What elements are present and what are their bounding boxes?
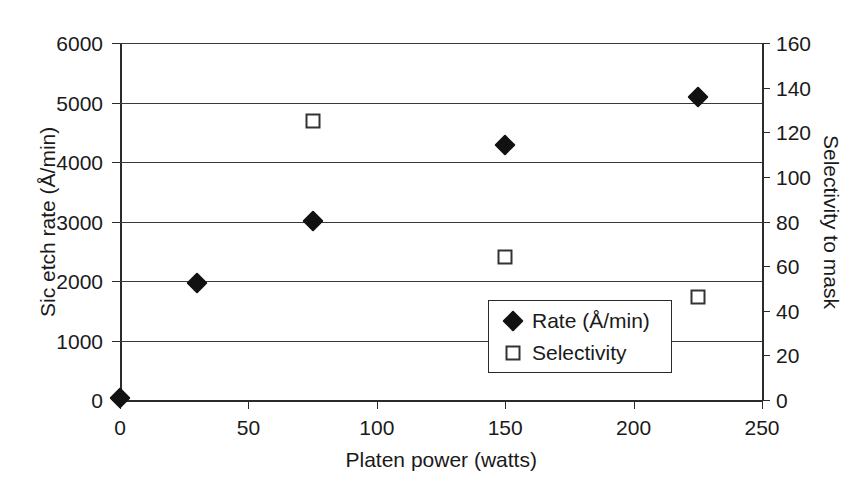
y-axis-right-ticklabel: 60 [776,256,799,277]
data-point-rate [302,210,323,231]
y-axis-right-ticklabel: 80 [776,211,799,232]
y-axis-right-ticklabel: 20 [776,345,799,366]
x-axis-line [120,400,762,402]
y-axis-left-ticklabel: 6000 [0,33,103,54]
y-axis-left-ticklabel: 3000 [0,211,103,232]
y-axis-left-ticklabel: 1000 [0,330,103,351]
y-axis-left-tick [112,281,120,282]
x-axis-title: Platen power (watts) [346,448,537,472]
y-axis-left-tick [112,162,120,163]
gridline-y [120,281,762,282]
y-axis-left-tick [112,222,120,223]
y-axis-right-tick [762,266,770,267]
y-axis-right-tick [762,132,770,133]
y-axis-left-tick [112,341,120,342]
data-point-selectivity [690,290,705,305]
y-axis-right-tick [762,222,770,223]
x-axis-tick [634,400,635,409]
y-axis-left-tick [112,43,120,44]
y-axis-right-tick [762,311,770,312]
gridline-y [120,162,762,163]
y-axis-right-tick [762,177,770,178]
y-axis-right-tick [762,400,770,401]
y-axis-right-ticklabel: 140 [776,77,811,98]
filled-diamond-icon [503,311,523,331]
y-axis-right-tick [762,355,770,356]
gridline-y [120,222,762,223]
data-point-rate [495,134,516,155]
y-axis-left-ticklabel: 4000 [0,152,103,173]
y-axis-right-ticklabel: 160 [776,33,811,54]
y-axis-left-tick [112,103,120,104]
y-axis-right-ticklabel: 120 [776,122,811,143]
y-axis-left-ticklabel: 5000 [0,92,103,113]
y-axis-right-ticklabel: 40 [776,300,799,321]
data-point-rate [687,86,708,107]
data-point-rate [109,388,130,409]
chart-figure: Sic etch rate (Å/min) Selectivity to mas… [0,0,866,497]
y-axis-right-tick [762,43,770,44]
chart-legend: Rate (Å/min) Selectivity [488,300,672,373]
open-square-icon [503,343,523,363]
x-axis-tick [377,400,378,409]
y-axis-left-ticklabel: 0 [0,390,103,411]
legend-label-selectivity: Selectivity [532,342,627,363]
x-axis-tick [248,400,249,409]
legend-label-rate: Rate (Å/min) [532,310,650,331]
gridline-y [120,43,762,44]
x-axis-ticklabel: 150 [488,417,523,438]
data-point-selectivity [498,250,513,265]
y-axis-right-ticklabel: 0 [776,390,788,411]
data-point-rate [186,273,207,294]
x-axis-tick [762,400,763,409]
legend-item-rate: Rate (Å/min) [503,305,671,337]
x-axis-ticklabel: 100 [359,417,394,438]
y-axis-right-tick [762,88,770,89]
data-point-selectivity [305,114,320,129]
gridline-y [120,103,762,104]
x-axis-tick [505,400,506,409]
y-axis-right-title: Selectivity to mask [819,135,843,309]
x-axis-ticklabel: 250 [744,417,779,438]
y-axis-right-ticklabel: 100 [776,166,811,187]
legend-item-selectivity: Selectivity [503,337,671,369]
y-axis-left-ticklabel: 2000 [0,271,103,292]
x-axis-ticklabel: 50 [237,417,260,438]
x-axis-ticklabel: 200 [616,417,651,438]
x-axis-ticklabel: 0 [114,417,126,438]
